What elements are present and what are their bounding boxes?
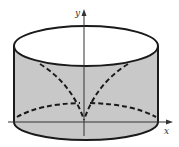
- y-axis-arrowhead: [82, 9, 87, 16]
- cylinder-diagram: y x: [0, 0, 179, 147]
- x-axis-label: x: [164, 126, 169, 136]
- x-axis-arrowhead: [166, 120, 173, 125]
- diagram-canvas: y x: [0, 0, 179, 147]
- cylinder-top-face: [14, 26, 158, 66]
- y-axis-label: y: [74, 8, 81, 18]
